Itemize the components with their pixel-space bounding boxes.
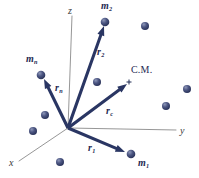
background-particle [56,158,64,166]
background-particle [29,127,37,135]
axis-line-z [68,16,72,128]
vector-label-r2: r2 [97,47,104,57]
particles-group [29,18,191,166]
background-particle [93,78,101,86]
center-of-mass-diagram: zyxr2m2rnmnrcC.M.r1m1 [0,0,199,178]
axis-line-y [68,128,176,130]
axis-label-z: z [68,6,72,16]
vector-label-rc: rc [106,106,113,116]
mass-label-base-r1: m [138,157,146,168]
vector-label-subscript-rc: c [110,110,113,117]
mass-label-base-r2: m [101,0,109,11]
vector-label-subscript-r1: 1 [92,147,95,154]
vector-label-rn: rn [55,83,63,93]
vector-label-r1: r1 [88,143,95,153]
vector-label-subscript-r2: 2 [101,51,104,58]
axis-label-y: y [180,126,184,136]
mass-label-subscript-rn: n [34,58,38,65]
background-particle [183,85,191,93]
vector-arrow-r1 [67,127,125,152]
center-of-mass-label: C.M. [131,65,152,75]
mass-label-r2: m2 [101,1,112,11]
axis-label-x: x [9,158,13,168]
particle-r1 [127,150,136,159]
axis-line-x [19,128,68,161]
particle-rn [37,71,46,80]
background-particle [162,102,170,110]
vector-label-subscript-rn: n [59,87,63,94]
mass-label-subscript-r1: 1 [146,162,149,169]
background-particle [141,22,149,30]
mass-label-subscript-r2: 2 [109,5,112,12]
diagram-canvas [0,0,199,178]
background-particle [41,111,49,119]
center-of-mass-marker [127,80,132,85]
mass-label-r1: m1 [138,158,149,168]
particle-r2 [101,18,110,27]
mass-label-base-rn: m [26,53,34,64]
mass-label-rn: mn [26,54,38,64]
